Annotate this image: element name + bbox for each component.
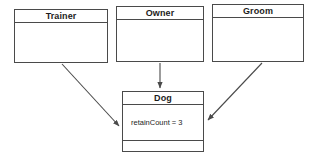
class-operations-dog bbox=[123, 141, 203, 151]
class-body-trainer bbox=[15, 23, 107, 62]
class-name-owner: Owner bbox=[117, 7, 203, 20]
arrow-trainer-to-dog bbox=[62, 64, 119, 126]
class-body-owner bbox=[117, 20, 203, 61]
arrow-groom-to-dog bbox=[208, 63, 262, 120]
class-attributes-dog: retainCount = 3 bbox=[123, 105, 203, 141]
class-body-groom bbox=[213, 18, 303, 61]
class-name-groom: Groom bbox=[213, 5, 303, 18]
uml-class-owner[interactable]: Owner bbox=[116, 6, 204, 62]
uml-class-trainer[interactable]: Trainer bbox=[14, 9, 108, 63]
uml-class-dog[interactable]: Dog retainCount = 3 bbox=[122, 91, 204, 152]
uml-class-diagram: Trainer Owner Groom Dog retainCount = 3 bbox=[0, 0, 313, 163]
attribute-retain-count: retainCount = 3 bbox=[131, 118, 183, 127]
class-name-trainer: Trainer bbox=[15, 10, 107, 23]
class-name-dog: Dog bbox=[123, 92, 203, 105]
uml-class-groom[interactable]: Groom bbox=[212, 4, 304, 62]
